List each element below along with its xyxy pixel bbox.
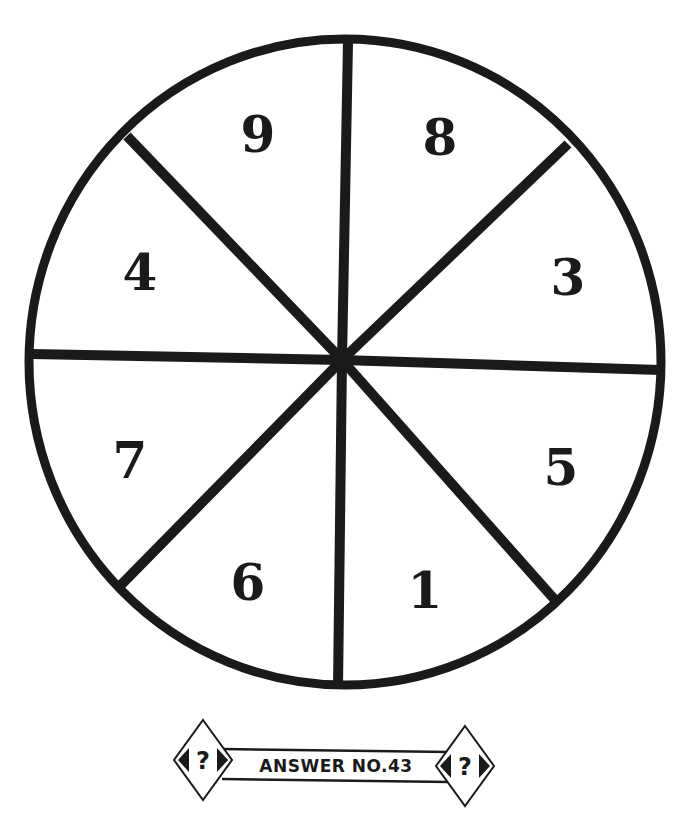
segment-number-bottom-right: 1 xyxy=(408,561,443,620)
answer-banner: ANSWER NO.43 ? ? xyxy=(174,720,494,806)
svg-text:?: ? xyxy=(458,753,472,781)
segment-number-left-lower: 7 xyxy=(113,431,148,490)
question-mark-icon: ? xyxy=(174,720,232,800)
segment-number-right-upper: 3 xyxy=(551,248,586,307)
spoke-vertical-bottom xyxy=(338,360,342,688)
segment-number-right-lower: 5 xyxy=(544,438,579,497)
banner-label: ANSWER NO.43 xyxy=(259,756,412,776)
puzzle-figure: 9 8 3 5 1 6 7 4 ANSWER NO.43 ? ? xyxy=(0,0,675,837)
segment-number-bottom-left: 6 xyxy=(231,553,266,612)
spoke-vertical-top xyxy=(342,42,348,360)
spoke-horizontal-left xyxy=(32,354,342,360)
number-wheel: 9 8 3 5 1 6 7 4 xyxy=(29,39,661,688)
question-mark-icon: ? xyxy=(436,726,494,806)
segment-number-left-upper: 4 xyxy=(123,243,158,302)
svg-text:?: ? xyxy=(196,747,210,775)
segment-number-top-right: 8 xyxy=(423,108,458,167)
segment-number-top-left: 9 xyxy=(241,105,276,164)
